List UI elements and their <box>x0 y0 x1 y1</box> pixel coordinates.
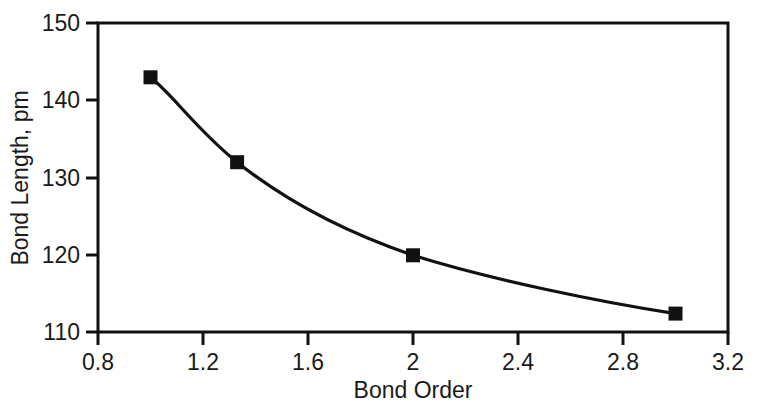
x-tick-label-6: 3.2 <box>712 349 744 375</box>
y-tick-label-120: 120 <box>42 242 80 268</box>
x-axis-title: Bond Order <box>354 377 473 403</box>
x-tick-label-4: 2.4 <box>502 349 534 375</box>
x-axis-ticks <box>98 332 728 345</box>
y-tick-label-110: 110 <box>43 319 80 345</box>
x-tick-label-2: 1.6 <box>292 349 324 375</box>
y-axis-ticks <box>86 23 98 332</box>
x-tick-label-0: 0.8 <box>82 349 114 375</box>
data-point-2 <box>230 155 244 169</box>
y-tick-label-130: 130 <box>42 165 80 191</box>
y-tick-label-140: 140 <box>42 87 80 113</box>
chart-figure: 0.8 1.2 1.6 2 2.4 2.8 3.2 110 120 130 14… <box>0 0 760 418</box>
y-axis-title: Bond Length, pm <box>7 90 33 265</box>
data-point-4 <box>669 307 683 321</box>
y-tick-label-150: 150 <box>42 10 80 36</box>
data-point-3 <box>406 248 420 262</box>
data-point-1 <box>144 70 158 84</box>
bond-length-vs-bond-order-chart: 0.8 1.2 1.6 2 2.4 2.8 3.2 110 120 130 14… <box>0 0 760 418</box>
x-axis-tick-labels: 0.8 1.2 1.6 2 2.4 2.8 3.2 <box>82 349 744 375</box>
x-tick-label-1: 1.2 <box>187 349 219 375</box>
x-tick-label-3: 2 <box>407 349 420 375</box>
y-axis-tick-labels: 110 120 130 140 150 <box>42 10 80 345</box>
x-tick-label-5: 2.8 <box>607 349 639 375</box>
plot-frame <box>98 23 728 332</box>
